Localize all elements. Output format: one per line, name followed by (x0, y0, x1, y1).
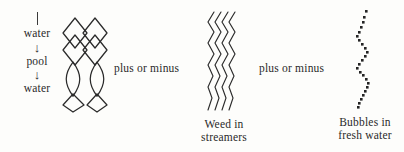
sequence-label-water-top: water (24, 28, 51, 40)
sequence-label-water-bottom: water (24, 83, 51, 95)
bubble-chain-icon (330, 8, 400, 112)
braided-lattice-icon (60, 10, 112, 114)
bubbles-caption: Bubbles in fresh water (338, 116, 392, 142)
weed-caption-line-1: Weed in (201, 118, 247, 131)
connector-label-2: plus or minus (259, 62, 324, 74)
bubbles-caption-line-2: fresh water (338, 129, 392, 142)
bubbles-element: Bubbles in fresh water (330, 8, 400, 142)
wavy-streamers-icon (196, 10, 252, 114)
bubbles-caption-line-1: Bubbles in (338, 116, 392, 129)
weed-caption: Weed in streamers (201, 118, 247, 144)
water-pool-water-sequence: water ↓ pool ↓ water (8, 12, 66, 96)
diagram-canvas: water ↓ pool ↓ water (0, 0, 404, 152)
sequence-label-pool: pool (26, 56, 47, 68)
arrow-down-icon: ↓ (34, 69, 41, 82)
braid-element (60, 10, 112, 118)
arrow-down-icon: ↓ (34, 42, 41, 55)
connector-label-1: plus or minus (114, 62, 179, 74)
vertical-tick-icon (37, 12, 38, 25)
weed-caption-line-2: streamers (201, 131, 247, 144)
weed-element: Weed in streamers (196, 10, 252, 144)
